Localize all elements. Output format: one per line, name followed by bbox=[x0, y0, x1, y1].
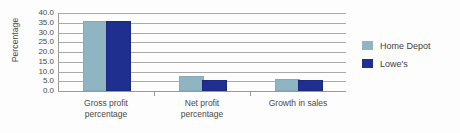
gridline bbox=[58, 13, 346, 14]
legend-swatch-icon bbox=[362, 59, 373, 68]
legend-item-label: Lowe's bbox=[380, 59, 408, 69]
legend-item-label: Home Depot bbox=[380, 41, 431, 51]
legend-item[interactable]: Home Depot bbox=[362, 40, 431, 51]
y-axis-tick-label: 5.0 bbox=[20, 77, 54, 85]
x-axis-category-label: Growth in sales bbox=[250, 98, 346, 109]
bar-home-depot-1 bbox=[179, 76, 204, 91]
y-axis-tick-label: 40.0 bbox=[20, 9, 54, 17]
x-axis-tick-mark bbox=[250, 92, 251, 96]
legend: Home DepotLowe's bbox=[362, 40, 431, 76]
bar-home-depot-2 bbox=[275, 79, 300, 91]
y-axis-tick-label: 0.0 bbox=[20, 87, 54, 95]
x-axis-category-label: Net profit percentage bbox=[154, 98, 250, 120]
bar-chart: Percentage 40.035.030.025.020.015.010.05… bbox=[0, 0, 460, 133]
bar-lowe-s-1 bbox=[202, 80, 227, 91]
y-axis-tick-label: 25.0 bbox=[20, 38, 54, 46]
bar-home-depot-0 bbox=[83, 21, 108, 91]
y-axis-tick-labels: 40.035.030.025.020.015.010.05.00.0 bbox=[18, 13, 54, 91]
y-axis-tick-label: 30.0 bbox=[20, 29, 54, 37]
legend-item[interactable]: Lowe's bbox=[362, 58, 431, 69]
y-axis-tick-label: 35.0 bbox=[20, 19, 54, 27]
y-axis-tick-label: 20.0 bbox=[20, 48, 54, 56]
x-axis-category-label: Gross profit percentage bbox=[58, 98, 154, 120]
legend-swatch-icon bbox=[362, 41, 373, 50]
plot-area bbox=[58, 13, 346, 91]
y-axis-tick-label: 15.0 bbox=[20, 58, 54, 66]
y-axis-tick-label: 10.0 bbox=[20, 68, 54, 76]
x-axis-tick-mark bbox=[154, 92, 155, 96]
bar-lowe-s-0 bbox=[106, 21, 131, 91]
bar-lowe-s-2 bbox=[298, 80, 323, 91]
gridline bbox=[58, 91, 346, 92]
